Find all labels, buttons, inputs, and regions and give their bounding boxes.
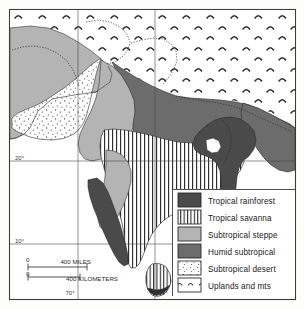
graticule-label-lat-20: 20°: [15, 155, 25, 161]
graticule-label-lon-80: 80°: [158, 290, 168, 296]
legend-swatch-subtropical-desert: [178, 261, 201, 275]
legend-label-subtropical-steppe: Subtropical steppe: [208, 231, 278, 240]
graticule-label-lat-10: 10°: [15, 238, 25, 244]
graticule-label-lon-70: 70°: [65, 290, 75, 296]
legend-swatch-tropical-savanna: [178, 210, 201, 224]
legend-swatch-uplands-and-mts: [178, 278, 201, 292]
legend-swatch-humid-subtropical: [178, 244, 201, 258]
map-legend: Tropical rainforest Tropical savanna Sub…: [172, 189, 295, 296]
climate-map-figure: 20° 10° 70° 80° 0 400 MILES 0 400 KILOME…: [0, 0, 304, 309]
legend-label-uplands-and-mts: Uplands and mts: [208, 282, 271, 291]
scale-bar-km-zero: 0: [26, 270, 30, 277]
map-canvas: 20° 10° 70° 80° 0 400 MILES 0 400 KILOME…: [0, 0, 304, 309]
legend-label-tropical-rainforest: Tropical rainforest: [208, 197, 276, 206]
legend-label-tropical-savanna: Tropical savanna: [208, 214, 272, 223]
scale-bar-miles-label: 400 MILES: [60, 258, 91, 265]
legend-swatch-subtropical-steppe: [178, 227, 201, 241]
legend-label-subtropical-desert: Subtropical desert: [208, 265, 276, 274]
scale-bar-km-label: 400 KILOMETERS: [66, 275, 118, 282]
legend-label-humid-subtropical: Humid subtropical: [208, 248, 275, 257]
legend-swatch-tropical-rainforest: [178, 193, 201, 207]
scale-bar-miles-zero: 0: [26, 256, 30, 263]
